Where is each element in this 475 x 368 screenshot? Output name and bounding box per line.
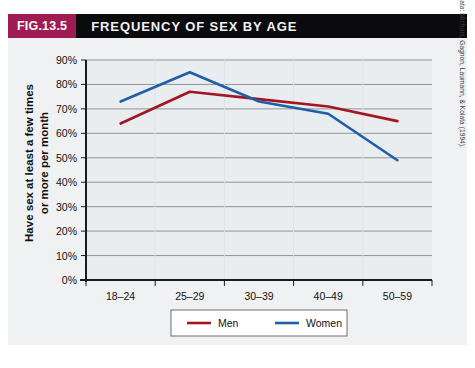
x-axis-tick-label: 50–59 bbox=[383, 290, 412, 302]
y-axis-tick-label: 0% bbox=[62, 274, 77, 286]
y-axis-tick-label: 80% bbox=[56, 78, 77, 90]
legend-label-men: Men bbox=[218, 317, 239, 329]
y-axis-tick-label: 40% bbox=[56, 176, 77, 188]
x-axis-tick-label: 30–39 bbox=[244, 290, 273, 302]
line-chart: 0%10%20%30%40%50%60%70%80%90%18–2425–293… bbox=[28, 42, 440, 342]
legend-label-women: Women bbox=[306, 317, 342, 329]
x-axis-tick-label: 18–24 bbox=[106, 290, 135, 302]
x-axis-tick-label: 40–49 bbox=[314, 290, 343, 302]
figure-title: FREQUENCY OF SEX BY AGE bbox=[76, 14, 297, 38]
chart-area: 0%10%20%30%40%50%60%70%80%90%18–2425–293… bbox=[28, 42, 440, 342]
x-axis-tick-label: 25–29 bbox=[175, 290, 204, 302]
y-axis-tick-label: 90% bbox=[56, 54, 77, 66]
y-axis-tick-label: 60% bbox=[56, 127, 77, 139]
y-axis-tick-label: 50% bbox=[56, 152, 77, 164]
figure-title-bar: FIG.13.5 FREQUENCY OF SEX BY AGE bbox=[8, 14, 467, 38]
y-axis-tick-label: 20% bbox=[56, 225, 77, 237]
figure-number-badge: FIG.13.5 bbox=[8, 14, 76, 38]
figure-container: FIG.13.5 FREQUENCY OF SEX BY AGE Have se… bbox=[0, 0, 475, 368]
figure-body: Have sex at least a few times or more pe… bbox=[8, 38, 467, 345]
y-axis-tick-label: 30% bbox=[56, 201, 77, 213]
y-axis-tick-label: 70% bbox=[56, 103, 77, 115]
y-axis-tick-label: 10% bbox=[56, 250, 77, 262]
source-note: Source of data: Michael, Gagnon, Laumann… bbox=[459, 0, 466, 148]
